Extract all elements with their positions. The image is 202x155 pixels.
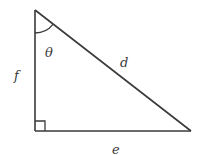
side-d-label: d: [120, 55, 128, 70]
angle-theta-arc: [35, 24, 53, 33]
side-d-hypotenuse: [35, 10, 191, 131]
angle-theta-label: θ: [45, 45, 53, 60]
side-f-label: f: [13, 68, 21, 83]
right-triangle-diagram: θ f d e: [0, 0, 202, 155]
side-e-label: e: [112, 142, 120, 155]
right-angle-marker: [35, 121, 45, 131]
